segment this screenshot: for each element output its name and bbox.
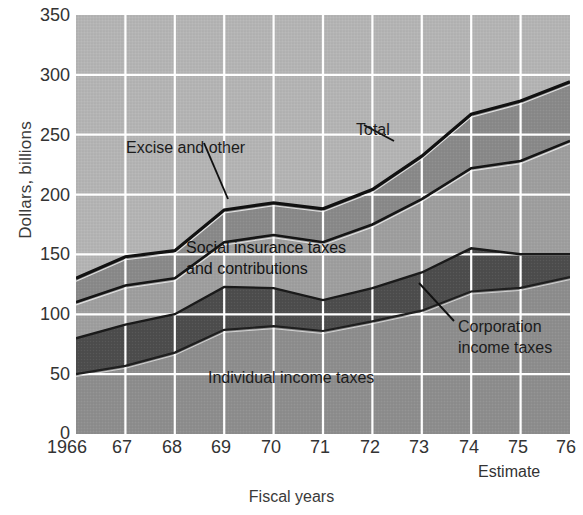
x-tick-74: 74 xyxy=(459,438,479,456)
y-tick-100: 100 xyxy=(8,305,70,323)
x-tick-70: 70 xyxy=(261,438,281,456)
x-axis-tick-labels: 1966 67 68 69 70 71 72 73 74 75 76 xyxy=(0,438,583,464)
x-tick-1966: 1966 xyxy=(47,438,87,456)
x-tick-71: 71 xyxy=(310,438,330,456)
estimate-note: Estimate xyxy=(478,463,540,481)
x-tick-72: 72 xyxy=(360,438,380,456)
y-tick-200: 200 xyxy=(8,186,70,204)
x-axis-title: Fiscal years xyxy=(0,488,583,506)
x-tick-73: 73 xyxy=(409,438,429,456)
y-tick-150: 150 xyxy=(8,245,70,263)
y-tick-300: 300 xyxy=(8,66,70,84)
y-tick-250: 250 xyxy=(8,126,70,144)
x-tick-69: 69 xyxy=(211,438,231,456)
y-tick-350: 350 xyxy=(8,6,70,24)
x-tick-75: 75 xyxy=(508,438,528,456)
x-tick-68: 68 xyxy=(162,438,182,456)
plot-area: Total Excise and other Social insurance … xyxy=(76,15,570,434)
x-tick-67: 67 xyxy=(112,438,132,456)
y-tick-50: 50 xyxy=(8,365,70,383)
x-tick-76: 76 xyxy=(556,438,576,456)
chart-figure: Dollars, billions 350 300 250 200 150 10… xyxy=(0,0,583,515)
